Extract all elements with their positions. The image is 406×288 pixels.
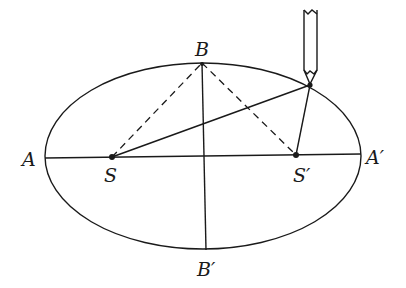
label-S: S [104,164,117,186]
dashed-line-S-B [112,63,202,157]
B-dot [200,62,204,66]
label-B-prime: B′ [196,258,216,280]
label-B: B [194,38,209,60]
pencil-icon [304,10,317,84]
label-S-prime: S′ [293,164,311,186]
label-A-prime: A′ [364,146,385,168]
label-A: A [20,148,36,170]
string-S-to-pencil [112,85,310,157]
focus-Sprime-dot [293,152,299,158]
string-Sprime-to-pencil [296,85,310,155]
dashed-line-B-Sprime [202,63,296,155]
focus-S-dot [109,154,115,160]
ellipse-diagram: B A A′ S S′ B′ [0,0,406,288]
major-axis [45,154,361,158]
